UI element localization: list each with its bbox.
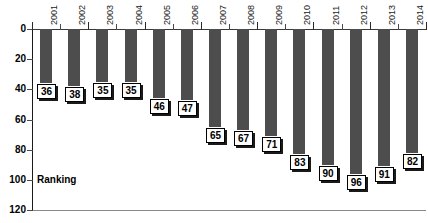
x-axis-tick: [342, 24, 343, 30]
bar: [293, 29, 305, 154]
y-axis-tick-label: 40: [0, 84, 26, 94]
bar: [209, 29, 221, 127]
y-axis-tick-label: 0: [0, 24, 26, 34]
data-label: 38: [65, 87, 84, 102]
bar: [350, 29, 362, 174]
bar: [68, 29, 80, 86]
bar: [153, 29, 165, 98]
data-label: 96: [347, 175, 366, 190]
y-axis-tick: [27, 210, 33, 211]
x-axis-year-label: 2011: [332, 6, 341, 25]
x-axis-tick: [398, 24, 399, 30]
data-label: 65: [206, 128, 225, 143]
y-axis-tick-label: 80: [0, 145, 26, 155]
x-axis-year-label: 2009: [275, 5, 284, 25]
bar: [40, 29, 52, 83]
x-axis-tick: [285, 24, 286, 30]
x-axis-year-label: 2007: [219, 5, 228, 25]
x-axis-tick: [116, 24, 117, 30]
data-label: 67: [234, 131, 253, 146]
y-axis-tick: [27, 59, 33, 60]
chart-bottom-border: [32, 210, 426, 211]
x-axis-year-label: 2008: [247, 5, 256, 25]
x-axis-tick: [313, 22, 314, 30]
x-axis-tick: [229, 24, 230, 30]
bar: [181, 29, 193, 100]
y-axis-tick-label: 60: [0, 115, 26, 125]
y-axis-tick-label: 100: [0, 175, 26, 185]
bar: [322, 29, 334, 165]
y-axis-tick: [27, 180, 33, 181]
bar: [125, 29, 137, 82]
x-axis-year-label: 2006: [191, 5, 200, 25]
bar: [406, 29, 418, 153]
x-axis-tick: [257, 22, 258, 30]
x-axis-tick: [173, 24, 174, 30]
data-label: 71: [262, 137, 281, 152]
x-axis-year-label: 2004: [135, 5, 144, 25]
y-axis-caption: Ranking: [37, 174, 76, 185]
x-axis-tick: [426, 22, 427, 30]
bar: [265, 29, 277, 136]
bar: [96, 29, 108, 82]
x-axis-tick: [60, 24, 61, 30]
data-label: 83: [290, 155, 309, 170]
x-axis-year-label: 2010: [303, 5, 312, 25]
ranking-bar-chart: 020406080100120 200120022003200420052006…: [0, 0, 428, 223]
y-axis-tick: [27, 89, 33, 90]
data-label: 91: [375, 167, 394, 182]
x-axis-tick: [32, 22, 33, 30]
data-label: 36: [37, 84, 56, 99]
x-axis-year-label: 2002: [78, 5, 87, 25]
data-label: 82: [403, 154, 422, 169]
y-axis-tick-label: 20: [0, 54, 26, 64]
x-axis-year-label: 2001: [50, 5, 59, 25]
x-axis-tick: [88, 22, 89, 30]
data-label: 47: [178, 101, 197, 116]
data-label: 35: [122, 83, 141, 98]
y-axis-tick: [27, 120, 33, 121]
data-label: 90: [319, 166, 338, 181]
data-label: 35: [93, 83, 112, 98]
data-label: 46: [150, 99, 169, 114]
x-axis-year-label: 2003: [106, 5, 115, 25]
x-axis-tick: [145, 22, 146, 30]
x-axis-year-label: 2013: [388, 5, 397, 25]
y-axis-tick-label: 120: [0, 205, 26, 215]
y-axis-tick: [27, 150, 33, 151]
bar: [378, 29, 390, 166]
x-axis-year-label: 2005: [163, 5, 172, 25]
x-axis-tick: [201, 22, 202, 30]
x-axis-year-label: 2014: [416, 5, 425, 25]
x-axis-tick: [370, 22, 371, 30]
x-axis-year-label: 2012: [360, 5, 369, 25]
bar: [237, 29, 249, 130]
